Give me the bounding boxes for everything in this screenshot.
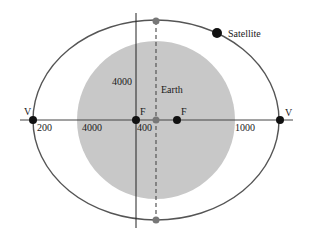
earth-radius-vertical-label: 4000 (112, 76, 132, 87)
minor-top-point (153, 18, 160, 25)
perigee-distance-label: 200 (37, 122, 52, 133)
orbit-diagram: Satellite Earth 4000 V F F V 200 4000 40… (0, 0, 309, 252)
minor-bottom-point (153, 217, 160, 224)
vertex-right-label: V (285, 107, 293, 118)
satellite-label: Satellite (228, 28, 261, 39)
focus-offset-label: 400 (137, 122, 152, 133)
focus-right-label: F (181, 106, 187, 117)
focus-right-point (173, 116, 181, 124)
vertex-right-point (276, 116, 284, 124)
earth-label: Earth (161, 84, 183, 95)
satellite-point (212, 28, 222, 38)
apogee-distance-label: 1000 (235, 122, 255, 133)
center-point (153, 117, 160, 124)
focus-left-label: F (140, 106, 146, 117)
vertex-left-point (29, 116, 37, 124)
earth-radius-horizontal-label: 4000 (82, 122, 102, 133)
vertex-left-label: V (24, 106, 32, 117)
